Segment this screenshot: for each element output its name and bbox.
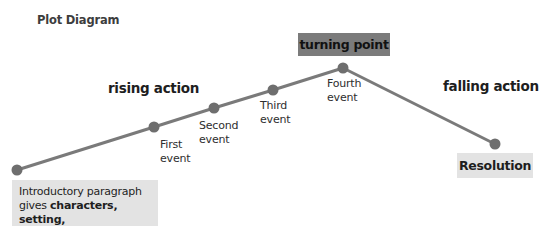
intro-text: gives <box>19 199 50 212</box>
fourth-event-label: Fourth event <box>327 77 361 104</box>
third-event-dot <box>268 85 279 96</box>
second-event-label: Second event <box>199 119 238 146</box>
intro-line-2: gives characters, setting, <box>19 199 158 226</box>
intro-line-1: Introductory paragraph <box>19 185 158 199</box>
resolution-dot <box>490 139 501 150</box>
plot-line <box>17 68 495 170</box>
event-label-line: event <box>260 113 290 127</box>
event-label-line: event <box>160 152 190 166</box>
turning-point-label: turning point <box>299 37 388 52</box>
turning-point-box: turning point <box>298 33 390 56</box>
event-label-line: Third <box>260 99 290 113</box>
resolution-label: Resolution <box>459 158 531 173</box>
event-label-line: Second <box>199 119 238 133</box>
first-event-dot <box>149 122 160 133</box>
event-label-line: Fourth <box>327 77 361 91</box>
first-event-label: First event <box>160 138 190 165</box>
event-label-line: event <box>199 133 238 147</box>
event-label-line: First <box>160 138 190 152</box>
introduction-box: Introductory paragraph gives characters,… <box>12 180 158 226</box>
introduction-dot <box>12 165 23 176</box>
fourth-event-dot <box>338 63 349 74</box>
event-label-line: event <box>327 91 361 105</box>
rising-action-label: rising action <box>108 80 199 96</box>
resolution-box: Resolution <box>457 153 533 178</box>
falling-action-label: falling action <box>443 78 539 94</box>
third-event-label: Third event <box>260 99 290 126</box>
second-event-dot <box>209 103 220 114</box>
